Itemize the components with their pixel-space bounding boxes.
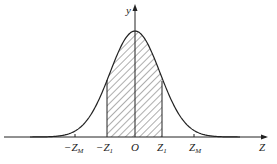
- tick-label-zm: ZM: [189, 141, 202, 155]
- y-axis-label: y: [125, 4, 131, 16]
- x-axis-arrow-icon: [261, 135, 268, 140]
- normal-curve-diagram: y Z −ZM −Z1 O Z1 ZM: [0, 0, 277, 164]
- origin-label: O: [131, 141, 139, 153]
- tick-label-neg-z1: −Z1: [96, 141, 113, 155]
- x-axis-label: Z: [259, 141, 266, 153]
- tick-label-z1: Z1: [157, 141, 167, 155]
- tick-label-neg-zm: −ZM: [64, 141, 85, 155]
- y-axis-arrow-icon: [133, 4, 138, 11]
